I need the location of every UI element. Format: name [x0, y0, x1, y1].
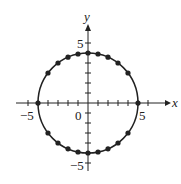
data-point [65, 146, 70, 151]
data-point [95, 149, 100, 154]
y-axis-label: y [82, 9, 90, 24]
data-point [55, 140, 60, 145]
data-point [85, 50, 90, 55]
data-point [65, 55, 70, 60]
data-point [45, 70, 50, 75]
data-point [45, 130, 50, 135]
data-point [35, 100, 40, 105]
origin-label: 0 [75, 108, 82, 123]
x-axis-label: x [171, 95, 178, 110]
x-axis-arrow-icon [165, 100, 171, 106]
x-tick-label-neg5: −5 [20, 108, 34, 123]
data-point [125, 70, 130, 75]
y-tick-label-pos5: 5 [77, 36, 84, 51]
data-point [75, 149, 80, 154]
data-point [135, 100, 140, 105]
data-point [125, 130, 130, 135]
data-point [105, 55, 110, 60]
y-axis-arrow-icon [85, 24, 91, 31]
data-point [85, 150, 90, 155]
circle-plot: x y −5 5 0 5 −5 [0, 0, 181, 184]
data-point [105, 146, 110, 151]
x-tick-label-pos5: 5 [139, 108, 146, 123]
data-point [115, 60, 120, 65]
data-point [115, 140, 120, 145]
data-point [55, 60, 60, 65]
data-point [95, 51, 100, 56]
y-tick-label-neg5: −5 [70, 158, 84, 173]
data-point [75, 51, 80, 56]
